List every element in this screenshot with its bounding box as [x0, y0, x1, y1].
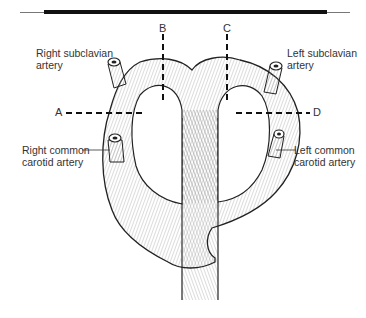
section-marker-c: C — [223, 22, 231, 34]
label-left-common-carotid-artery: Left common carotid artery — [294, 144, 355, 168]
label-right-common-carotid-artery: Right common carotid artery — [22, 144, 90, 168]
section-marker-d: D — [313, 106, 321, 118]
label-left-subclavian-artery: Left subclavian artery — [287, 47, 357, 71]
section-marker-b: B — [159, 22, 166, 34]
label-right-subclavian-artery: Right subclavian artery — [36, 47, 113, 71]
section-marker-a: A — [55, 106, 62, 118]
